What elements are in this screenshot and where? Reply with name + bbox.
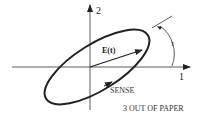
e-vector-label: E(t) bbox=[102, 46, 116, 55]
sense-label: SENSE bbox=[110, 86, 135, 95]
e-vector-arrow bbox=[90, 50, 142, 67]
axis-3-note: 3 OUT OF PAPER bbox=[123, 104, 184, 113]
axis-2-label: 2 bbox=[96, 5, 101, 16]
tau-label: τ bbox=[171, 39, 175, 48]
polarization-ellipse-diagram: 2 1 E(t) τ SENSE 3 OUT OF PAPER bbox=[0, 0, 208, 123]
axis-1-label: 1 bbox=[179, 71, 184, 82]
tau-reference-line bbox=[152, 16, 172, 28]
